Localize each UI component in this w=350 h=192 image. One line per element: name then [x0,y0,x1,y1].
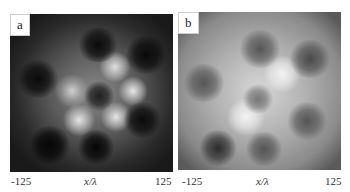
dark-lobe [124,36,168,74]
dark-center-lobe [242,84,274,114]
dark-lobe [244,132,284,166]
x-axis-label-b: x/λ [256,175,269,187]
panel-label-a: a [10,14,30,36]
x-max-tick-a: 125 [155,175,172,187]
dark-lobe [198,130,238,166]
dark-lobe [286,102,328,140]
dark-lobe [28,126,72,164]
x-max-tick-b: 125 [325,175,342,187]
dark-lobe [288,40,332,78]
panel-label-b: b [178,12,199,34]
dark-center-lobe [84,80,114,112]
x-min-tick-a: -125 [11,175,31,187]
x-min-tick-b: -125 [182,175,202,187]
panel-a-image: a [10,14,173,172]
dark-lobe [76,28,120,62]
dark-lobe [122,102,162,138]
dark-lobe [76,130,116,164]
dark-lobe [182,64,226,102]
dark-lobe [16,60,60,98]
x-axis-label-a: x/λ [84,175,97,187]
dark-lobe [238,30,282,68]
panel-b-image: b [178,12,341,170]
